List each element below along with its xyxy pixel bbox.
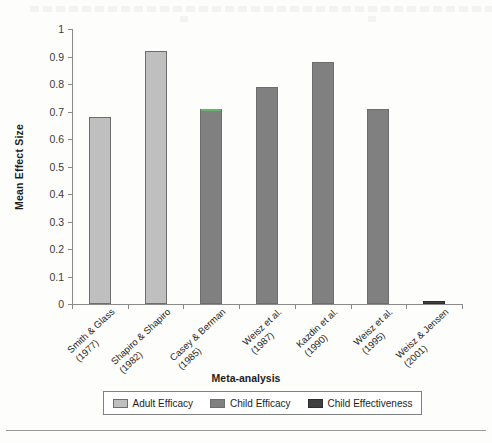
bar <box>145 51 167 304</box>
bar <box>256 87 278 304</box>
y-tick-label: 1 <box>58 23 64 35</box>
legend-swatch <box>308 399 323 408</box>
bar <box>312 62 334 304</box>
y-tick-label: 0.9 <box>49 51 64 63</box>
legend-swatch <box>113 399 128 408</box>
y-tick-label: 0.7 <box>49 106 64 118</box>
y-tick-label: 0.8 <box>49 78 64 90</box>
bar <box>367 109 389 304</box>
x-axis-title: Meta-analysis <box>0 372 492 384</box>
page-divider-rule <box>6 430 486 431</box>
legend-item: Adult Efficacy <box>113 398 193 409</box>
x-tick-label: Weisz et al.(1987) <box>231 306 292 365</box>
x-tick-label: Kazdin et al.(1990) <box>284 306 347 367</box>
legend-label: Adult Efficacy <box>133 398 193 409</box>
bar <box>89 117 111 304</box>
y-axis-title: Mean Effect Size <box>12 29 26 305</box>
y-tick-label: 0.6 <box>49 133 64 145</box>
plot-area: 00.10.20.30.40.50.60.70.80.91 <box>72 29 462 305</box>
y-tick-label: 0 <box>58 298 64 310</box>
y-tick-label: 0.3 <box>49 216 64 228</box>
y-tick-label: 0.4 <box>49 188 64 200</box>
legend-item: Child Efficacy <box>210 398 290 409</box>
bar <box>200 109 222 304</box>
x-axis-tick-labels: Smith & Glass(1977)Shapiro & Shapiro(198… <box>72 306 462 368</box>
legend-label: Child Effectiveness <box>328 398 413 409</box>
y-tick-label: 0.2 <box>49 243 64 255</box>
bar <box>423 301 445 304</box>
x-tick <box>462 304 463 309</box>
bar-chart-figure: Mean Effect Size 00.10.20.30.40.50.60.70… <box>0 0 492 443</box>
y-tick-label: 0.1 <box>49 271 64 283</box>
y-axis-title-text: Mean Effect Size <box>13 124 25 210</box>
y-tick-label: 0.5 <box>49 161 64 173</box>
chart-legend: Adult EfficacyChild EfficacyChild Effect… <box>103 391 422 415</box>
legend-swatch <box>210 399 225 408</box>
legend-label: Child Efficacy <box>230 398 290 409</box>
legend-item: Child Effectiveness <box>308 398 413 409</box>
scan-color-fringe <box>201 109 221 111</box>
bar-series-group <box>72 29 462 305</box>
